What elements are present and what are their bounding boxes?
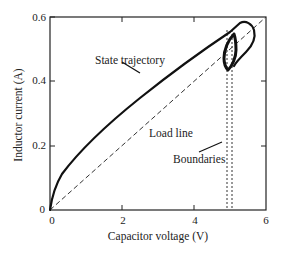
y-tick-label: 0 [40,203,46,215]
x-axis-label: Capacitor voltage (V) [108,230,208,243]
y-axis-label: Inductor current (A) [12,68,25,161]
load-line [50,17,266,210]
y-tick-label: 0.2 [32,139,46,151]
annotation-boundaries: Boundaries [173,153,226,165]
chart: 0 0.2 0.4 0.6 0 2 4 6 Capacitor voltage … [0,0,283,253]
x-tick-label: 4 [192,214,198,226]
x-tick-label: 6 [263,214,269,226]
x-tick-label: 2 [120,214,126,226]
y-tick-labels: 0 0.2 0.4 0.6 [32,11,46,215]
x-tick-label: 0 [49,214,55,226]
annotation-state-trajectory: State trajectory [95,54,165,67]
boundaries [227,30,232,210]
y-tick-label: 0.6 [32,11,46,23]
annotation-pointer [199,142,222,152]
y-tick-label: 0.4 [32,74,46,86]
annotation-load-line: Load line [149,127,193,139]
x-tick-labels: 0 2 4 6 [49,214,269,226]
